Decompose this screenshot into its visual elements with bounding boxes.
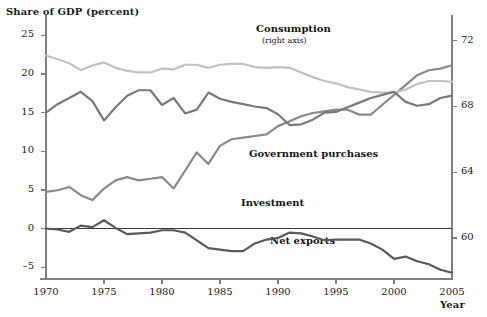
chart-container: Share of GDP (percent) Year Consumption … [0,0,487,317]
y-tick-label-left: 10 [8,144,34,155]
y-tick-label-left: 5 [8,183,34,194]
y-tick-label-right: 72 [461,34,487,45]
series-layer [46,55,452,272]
y-tick-label-left: –5 [8,260,34,271]
x-tick-label: 1970 [26,286,66,297]
x-tick-label: 2000 [374,286,414,297]
y-tick-label-left: 25 [8,28,34,39]
y-tick-label-left: 0 [8,222,34,233]
plot-area [0,0,487,317]
axis-layer [40,15,457,284]
y-tick-label-right: 60 [461,231,487,242]
y-tick-label-left: 15 [8,106,34,117]
x-tick-label: 1995 [316,286,356,297]
x-tick-label: 1990 [258,286,298,297]
y-tick-label-left: 20 [8,67,34,78]
y-tick-label-right: 68 [461,99,487,110]
x-tick-label: 1975 [84,286,124,297]
x-tick-label: 1980 [142,286,182,297]
series-line-consumption [46,65,452,200]
series-line-investment [46,90,452,125]
y-tick-label-right: 64 [461,165,487,176]
series-line-net-exports [46,220,452,273]
x-tick-label: 2005 [432,286,472,297]
x-tick-label: 1985 [200,286,240,297]
series-line-government-purchases [46,55,452,92]
